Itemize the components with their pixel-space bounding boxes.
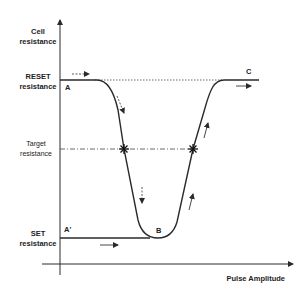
reset-label-line2: resistance (19, 82, 56, 91)
y-axis-label-line1: Cell (31, 27, 45, 36)
y-axis-label-line2: resistance (19, 37, 56, 46)
point-c-label: C (246, 67, 252, 76)
target-crossing-star-left (119, 144, 129, 154)
resistance-curve (60, 80, 259, 238)
point-b-label: B (156, 226, 162, 235)
target-label-line2: resistance (20, 150, 52, 157)
arrow-up-lower-icon (189, 194, 193, 210)
reset-label-line1: RESET (25, 72, 50, 81)
set-label-line2: resistance (19, 239, 56, 248)
x-axis-label: Pulse Amplitude (227, 274, 285, 283)
set-label-line1: SET (31, 229, 46, 238)
target-label-line1: Target (26, 140, 46, 148)
point-a-prime-label: A' (64, 225, 71, 234)
arrow-up-upper-icon (204, 123, 208, 138)
target-crossing-star-right (188, 144, 198, 154)
resistance-diagram: Cell resistance RESET resistance Target … (0, 0, 307, 293)
point-a-label: A (65, 83, 71, 92)
